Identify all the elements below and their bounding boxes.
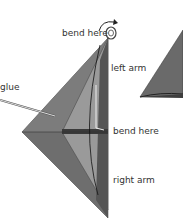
cone-shape — [140, 30, 183, 97]
label-right-arm: right arm — [113, 176, 155, 185]
label-bend-here-mid: bend here — [113, 127, 159, 136]
label-glue: glue — [0, 83, 19, 92]
label-left-arm: left arm — [111, 64, 146, 73]
label-bend-here-top: bend here — [62, 29, 108, 38]
